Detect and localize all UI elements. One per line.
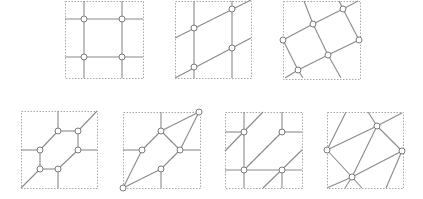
edge-line [352,151,402,177]
edge-line [175,38,251,78]
panel-frame [66,2,144,79]
panel-2-sheared-grid [175,0,252,79]
vertex-node [158,128,164,134]
edge-line [377,126,402,151]
vertex-node [241,129,247,135]
vertex-node [349,174,355,180]
vertex-node [191,64,197,70]
vertex-node [158,166,164,172]
vertex-node [229,45,235,51]
vertex-node [196,109,202,115]
edge-line [352,126,377,177]
vertex-node [81,16,87,22]
vertex-node [81,54,87,60]
edge-line [327,112,346,150]
edge-line [175,0,251,38]
vertex-node [55,166,61,172]
edge-line [161,150,180,169]
panel-frame [284,2,361,80]
vertex-node [229,6,235,12]
vertex-node [295,67,301,73]
edge-line [21,169,40,188]
vertex-node [399,148,405,154]
edge-line [343,9,359,40]
edge-line [161,131,180,150]
vertex-node [280,37,286,43]
edge-line [327,150,352,177]
panel-frame [176,2,252,79]
edge-line [328,40,359,55]
edge-line [40,131,58,150]
edge-line [313,24,328,55]
edge-line [386,151,402,188]
vertex-node [325,52,331,58]
edge-line [161,112,199,131]
vertex-node [374,123,380,129]
vertex-node [37,166,43,172]
vertex-node [55,128,61,134]
vertex-node [191,25,197,31]
vertex-node [279,167,285,173]
vertex-node [340,6,346,12]
edge-line [377,113,402,126]
vertex-node [119,16,125,22]
vertex-node [139,147,145,153]
vertex-node [241,167,247,173]
panel-6-grid-diagonals [225,112,303,189]
edge-line [244,132,282,170]
edge-line [327,126,377,150]
edge-line [123,150,142,188]
vertex-node [324,147,330,153]
edge-line [78,111,97,131]
panel-5-diamond [120,109,202,191]
edge-line [328,55,341,78]
diagram-canvas [0,0,423,199]
vertex-node [120,185,126,191]
panel-1-square-grid [65,1,144,79]
vertex-node [177,147,183,153]
vertex-node [37,147,43,153]
edge-line [283,40,298,70]
panel-4-hexagon [21,111,98,189]
panel-3-rotated-grid [280,1,362,80]
edge-line [298,55,328,70]
edge-line [142,131,161,150]
vertex-node [356,37,362,43]
edge-line [304,1,313,24]
vertex-node [279,129,285,135]
edge-line [283,24,313,40]
vertex-node [75,128,81,134]
vertex-node [75,147,81,153]
vertex-node [310,21,316,27]
panel-7-irregular [324,112,405,189]
edge-line [58,150,78,169]
edge-line [123,169,161,188]
edge-line [180,112,199,150]
edge-line [313,9,343,24]
vertex-node [119,54,125,60]
